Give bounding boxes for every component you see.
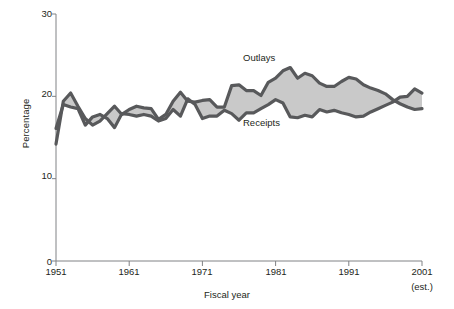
deficit-fill-area (56, 68, 422, 145)
axes (52, 14, 422, 266)
plot-area (0, 0, 454, 309)
budget-chart: Percentage Fiscal year 0 10 20 30 1951 1… (0, 0, 454, 309)
